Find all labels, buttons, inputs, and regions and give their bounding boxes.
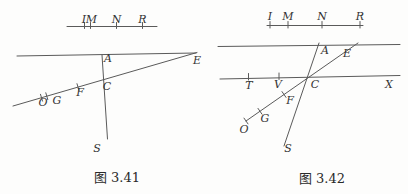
fig342-caption: 图 3.42 [299,171,345,186]
fig342-point-label-g: G [261,112,270,125]
fig342-ruler-label-n: N [316,10,327,23]
fig341-vertical-line-AS [102,55,108,139]
fig341-point-label-e: E [192,54,201,67]
fig341-caption: 图 3.41 [94,170,140,185]
fig342-point-label-c: C [311,78,320,91]
fig341-point-label-o: O [38,96,47,109]
fig342-ruler-label-r: R [355,10,364,23]
fig341-ruler-label-m: M [85,13,98,26]
textbook-figure-panel: I M N R A C E F G O S 图 3.41 [0,0,408,194]
fig341-point-label-s: S [93,142,101,155]
diagram-canvas: I M N R A C E F G O S 图 3.41 [0,0,408,194]
figure-3-41: I M N R A C E F G O S 图 3.41 [13,13,201,185]
figure-3-42: I M N R A C E T V X F G O [218,10,400,186]
fig341-ruler: I M N R [67,13,157,29]
fig342-point-label-a: A [320,44,329,57]
fig341-point-label-a: A [103,52,112,65]
fig342-point-label-v: V [274,78,283,91]
fig342-upper-parallel-line [218,45,400,47]
fig342-transversal-line-OE [246,43,358,121]
fig341-ruler-label-r: R [137,13,146,26]
fig341-point-label-f: F [75,86,84,99]
fig342-point-label-s: S [284,142,292,155]
fig342-ruler-label-i: I [267,10,273,23]
fig341-drawing: A C E F G O S [13,52,201,155]
fig342-point-label-t: T [245,79,254,92]
fig342-ruler-label-m: M [281,10,294,23]
fig342-point-label-e: E [342,47,351,60]
fig342-ruler: I M N R [267,10,364,28]
fig341-point-label-c: C [103,80,112,93]
fig342-point-label-x: X [384,78,394,91]
fig341-point-label-g: G [53,94,62,107]
fig341-ruler-label-n: N [111,13,122,26]
fig342-drawing: A C E T V X F G O S [218,43,400,155]
fig342-point-label-o: O [239,123,248,136]
fig342-point-label-f: F [285,94,294,107]
